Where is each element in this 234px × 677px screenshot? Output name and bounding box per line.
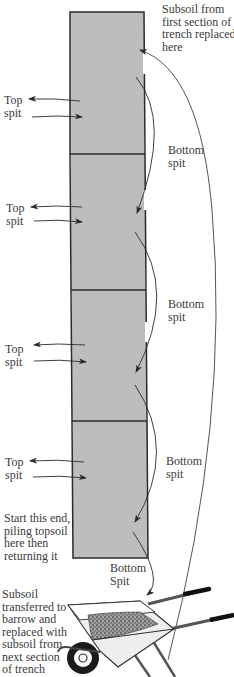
barrow-note-label: Subsoil transferred to barrow and replac…: [2, 588, 67, 676]
top-spit-label-4: Top spit: [5, 456, 24, 481]
top-spit-in-arrow-1: [32, 116, 82, 117]
bottom-spit-label-2: Bottom spit: [168, 298, 204, 323]
wheelbarrow-icon: [58, 589, 234, 677]
top-spit-label-3: Top spit: [5, 343, 24, 368]
top-spit-out-arrow-2: [31, 206, 82, 207]
start-end-label: Start this end, piling topsoil here then…: [4, 512, 70, 562]
bottom-spit-label-1: Bottom spit: [168, 144, 204, 169]
bottom-spit-label-3: Bottom spit: [166, 455, 202, 480]
trench-section-1: [70, 12, 144, 154]
bottom-spit-label-4: Bottom Spit: [110, 562, 146, 587]
trench-section-2: [71, 154, 145, 290]
top-spit-out-arrow-3: [34, 344, 85, 345]
trench-section-3: [72, 290, 146, 421]
top-spit-label-1: Top spit: [4, 94, 23, 119]
trench: [70, 12, 149, 558]
top-spit-label-2: Top spit: [6, 202, 25, 227]
subsoil-replaced-label: Subsoil from first section of trench rep…: [162, 3, 234, 53]
